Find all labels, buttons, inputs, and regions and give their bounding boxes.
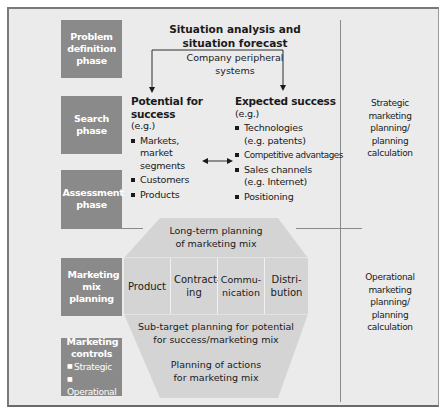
mix-cell-product: Product	[124, 258, 171, 314]
situation-analysis-title: Situation analysis and situation forecas…	[135, 22, 335, 50]
potential-heading: Potential for success	[131, 95, 231, 120]
arrow-down-icon	[280, 85, 286, 91]
phase-marketing-mix-planning: Marketing mix planning	[61, 258, 122, 316]
expected-heading: Expected success	[235, 95, 345, 108]
expected-success: Expected success (e.g.) Technologies (e.…	[235, 95, 345, 205]
side-label-line: marketing	[350, 110, 430, 123]
mix-label: Distri-bution	[270, 273, 304, 299]
potential-eg: (e.g.)	[131, 120, 231, 133]
phase-label: Assessment phase	[63, 187, 121, 211]
sub-target-line: for success/marketing mix	[121, 333, 311, 346]
horizontal-divider-right	[296, 228, 362, 229]
phase-problem-definition: Problem definition phase	[61, 20, 122, 78]
potential-item: Products	[131, 189, 231, 202]
side-label-line: Strategic	[350, 97, 430, 110]
sub-target-line: Sub-target planning for potential	[121, 320, 311, 333]
mix-cell-contracting: Contract-ing	[171, 258, 218, 314]
side-label-line: planning	[350, 309, 430, 322]
side-label-line: planning	[350, 135, 430, 148]
side-label-line: calculation	[350, 147, 430, 160]
phase-assessment: Assessment phase	[61, 170, 122, 228]
mix-cell-distribution: Distri-bution	[265, 258, 308, 314]
subtitle-line: systems	[155, 64, 315, 77]
sub-target-planning: Sub-target planning for potential for su…	[121, 320, 311, 346]
horizontal-divider-left	[61, 228, 143, 229]
subtitle-line: Company peripheral	[155, 51, 315, 64]
company-peripheral-systems: Company peripheral systems	[155, 51, 315, 77]
mix-cell-communication: Commu-nication	[218, 258, 265, 314]
arrow-down-icon	[149, 87, 155, 93]
expected-item: Sales channels (e.g. Internet)	[235, 164, 319, 189]
phase-label: Marketing mix planning	[68, 269, 116, 305]
phase-search: Search phase	[61, 96, 122, 154]
strategic-planning-label: Strategic marketing planning/ planning c…	[350, 97, 430, 160]
potential-item: Markets, market segments	[131, 135, 210, 173]
mix-label: Product	[128, 280, 166, 293]
long-term-line: Long-term planning	[169, 224, 262, 237]
side-label-line: Operational	[350, 271, 430, 284]
controls-item-strategic: Strategic	[61, 360, 112, 373]
side-label-line: marketing	[350, 284, 430, 297]
actions-line: for marketing mix	[121, 371, 311, 384]
mix-label: Contract-ing	[174, 273, 214, 299]
actions-line: Planning of actions	[121, 358, 311, 371]
planning-of-actions: Planning of actions for marketing mix	[121, 358, 311, 384]
long-term-planning: Long-term planning of marketing mix	[169, 224, 262, 250]
phase-label: Problem definition phase	[66, 31, 118, 67]
controls-item-operational: Operational	[61, 373, 122, 398]
side-label-line: planning/	[350, 296, 430, 309]
expected-eg: (e.g.)	[235, 108, 345, 121]
expected-item: Positioning	[235, 191, 345, 204]
operational-planning-label: Operational marketing planning/ planning…	[350, 271, 430, 334]
phase-marketing-controls: Marketing controls Strategic Operational	[61, 338, 122, 396]
expected-item: Technologies (e.g. patents)	[235, 122, 314, 147]
phase-label: Marketing controls	[67, 336, 117, 360]
title-line: Situation analysis and	[135, 22, 335, 36]
potential-for-success: Potential for success (e.g.) Markets, ma…	[131, 95, 231, 203]
title-line: situation forecast	[135, 36, 335, 50]
side-label-line: calculation	[350, 321, 430, 334]
mix-label: Commu-nication	[219, 273, 263, 299]
vertical-divider	[340, 20, 341, 402]
phase-label: Search phase	[72, 113, 112, 137]
expected-item: Competitive advantages	[235, 149, 345, 162]
side-label-line: planning/	[350, 122, 430, 135]
long-term-line: of marketing mix	[169, 237, 262, 250]
potential-item: Customers	[131, 174, 231, 187]
